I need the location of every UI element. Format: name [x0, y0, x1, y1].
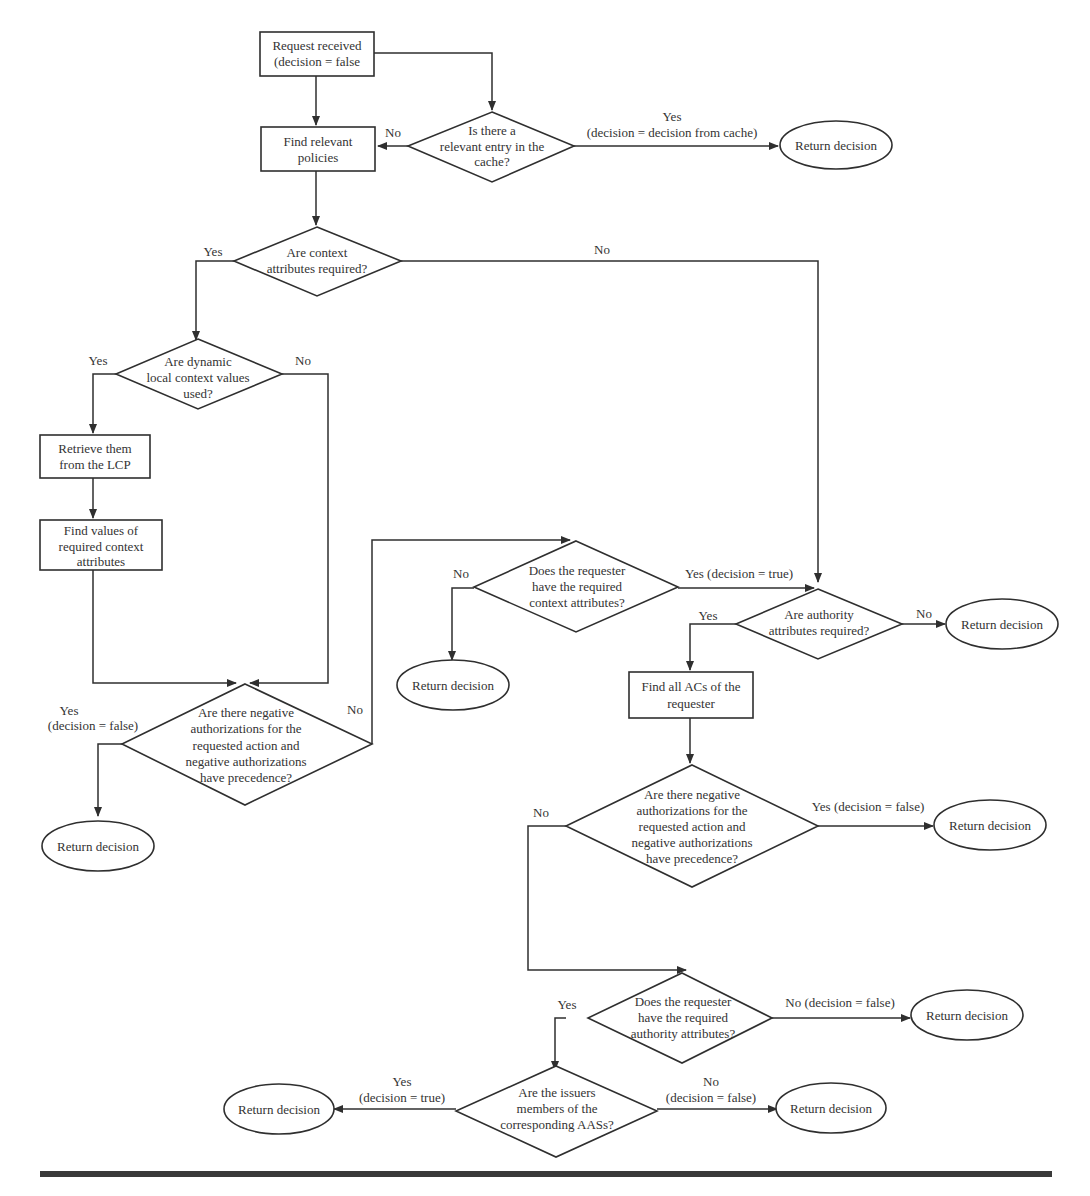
node-text: requested action and	[193, 738, 300, 753]
node-text: negative authorizations	[632, 835, 753, 850]
edge-values-to-neg1	[93, 570, 236, 683]
node-text: negative authorizations	[186, 754, 307, 769]
terminal-return-false: Return decision	[776, 1083, 886, 1133]
node-text: requester	[667, 696, 715, 711]
decision-has-authority-attributes: Does the requester have the required aut…	[588, 973, 772, 1063]
node-text: have precedence?	[200, 770, 292, 785]
edge-label: No (decision = false)	[785, 995, 895, 1010]
node-text: have the required	[532, 579, 623, 594]
edge-label: Yes	[699, 608, 718, 623]
edge-context-yes	[196, 261, 234, 340]
node-request-received: Request received (decision = false	[260, 32, 374, 76]
node-text: Are the issuers	[518, 1085, 595, 1100]
node-text: attributes required?	[267, 261, 368, 276]
decision-context-required: Are context attributes required?	[234, 227, 401, 296]
node-text: requested action and	[639, 819, 746, 834]
node-text: Are authority	[784, 607, 854, 622]
node-find-policies: Find relevant policies	[261, 127, 375, 171]
node-text: Are there negative	[644, 787, 740, 802]
node-text: corresponding AASs?	[500, 1117, 614, 1132]
node-text: from the LCP	[59, 457, 131, 472]
node-text: policies	[298, 150, 338, 165]
node-text: Retrieve them	[58, 441, 131, 456]
node-text: Request received	[272, 38, 362, 53]
node-text: Does the requester	[529, 563, 626, 578]
edge-label: (decision = true)	[359, 1090, 445, 1105]
node-text: members of the	[517, 1101, 598, 1116]
node-text: authorizations for the	[636, 803, 747, 818]
edge-label: (decision = false)	[666, 1090, 756, 1105]
node-retrieve-lcp: Retrieve them from the LCP	[40, 435, 150, 478]
edge-dynamic-yes	[93, 374, 116, 433]
node-text: Return decision	[795, 138, 877, 153]
bottom-rule-divider	[40, 1171, 1052, 1177]
terminal-return-no-authority-attributes: Return decision	[911, 990, 1023, 1040]
node-text: Are dynamic	[164, 354, 232, 369]
terminal-return-cache: Return decision	[780, 121, 892, 169]
node-text: have the required	[638, 1010, 729, 1025]
node-text: Are context	[286, 245, 347, 260]
edge-context-no	[401, 261, 818, 582]
node-text: required context	[59, 539, 144, 554]
edge-label: Yes	[89, 353, 108, 368]
node-text: have precedence?	[646, 851, 738, 866]
edge-label: Yes	[663, 109, 682, 124]
edge-label: Yes (decision = false)	[812, 799, 925, 814]
terminal-return-no-context: Return decision	[397, 660, 509, 710]
edge-label: Yes	[393, 1074, 412, 1089]
terminal-return-true: Return decision	[224, 1084, 334, 1134]
node-text: authority attributes?	[631, 1026, 736, 1041]
edge-label: No	[347, 702, 363, 717]
edge-label: Yes	[558, 997, 577, 1012]
edge-label: No	[533, 805, 549, 820]
node-find-context-values: Find values of required context attribut…	[40, 520, 162, 570]
decision-negative-authorizations-2: Are there negative authorizations for th…	[566, 765, 818, 887]
node-text: Are there negative	[198, 705, 294, 720]
node-text: Return decision	[926, 1008, 1008, 1023]
edge-authority-yes	[690, 624, 736, 670]
node-text: Find relevant	[284, 134, 353, 149]
decision-has-context-attributes: Does the requester have the required con…	[474, 541, 678, 632]
decision-cache-entry: Is there a relevant entry in the cache?	[408, 112, 574, 182]
node-text: Find all ACs of the	[642, 679, 741, 694]
node-text: authorizations for the	[190, 721, 301, 736]
node-text: Does the requester	[635, 994, 732, 1009]
edge-neg1-yes	[98, 744, 122, 816]
edge-label: No	[916, 606, 932, 621]
edge-label: No	[295, 353, 311, 368]
node-text: used?	[183, 386, 213, 401]
decision-issuers-members: Are the issuers members of the correspon…	[456, 1066, 657, 1157]
node-text: attributes	[77, 554, 125, 569]
node-text: context attributes?	[529, 595, 625, 610]
authorization-flowchart: Request received (decision = false Is th…	[0, 0, 1090, 1196]
edge-start-to-cache	[374, 53, 492, 110]
edge-dynamic-no	[250, 374, 328, 683]
node-text: Return decision	[238, 1102, 320, 1117]
terminal-return-negative-2: Return decision	[934, 800, 1046, 850]
node-text: attributes required?	[769, 623, 870, 638]
node-text: cache?	[474, 154, 510, 169]
node-text: Return decision	[790, 1101, 872, 1116]
terminal-return-no-authority: Return decision	[946, 599, 1058, 649]
edge-label: No	[453, 566, 469, 581]
node-text: (decision = false	[274, 54, 360, 69]
node-find-acs: Find all ACs of the requester	[629, 672, 753, 718]
edge-label: No	[594, 242, 610, 257]
edge-label: Yes	[60, 703, 79, 718]
node-text: Return decision	[412, 678, 494, 693]
node-text: Is there a	[468, 123, 516, 138]
edge-has-authority-yes	[555, 1018, 566, 1070]
node-text: relevant entry in the	[440, 139, 545, 154]
node-text: Find values of	[64, 523, 139, 538]
node-text: local context values	[146, 370, 249, 385]
edge-label: (decision = decision from cache)	[587, 125, 758, 140]
edge-has-context-no	[452, 588, 474, 660]
decision-authority-required: Are authority attributes required?	[736, 589, 902, 659]
decision-negative-authorizations-1: Are there negative authorizations for th…	[122, 684, 372, 805]
edge-label: No	[385, 125, 401, 140]
node-text: Return decision	[949, 818, 1031, 833]
node-text: Return decision	[961, 617, 1043, 632]
edge-label: No	[703, 1074, 719, 1089]
node-text: Return decision	[57, 839, 139, 854]
terminal-return-negative-1: Return decision	[42, 821, 154, 871]
